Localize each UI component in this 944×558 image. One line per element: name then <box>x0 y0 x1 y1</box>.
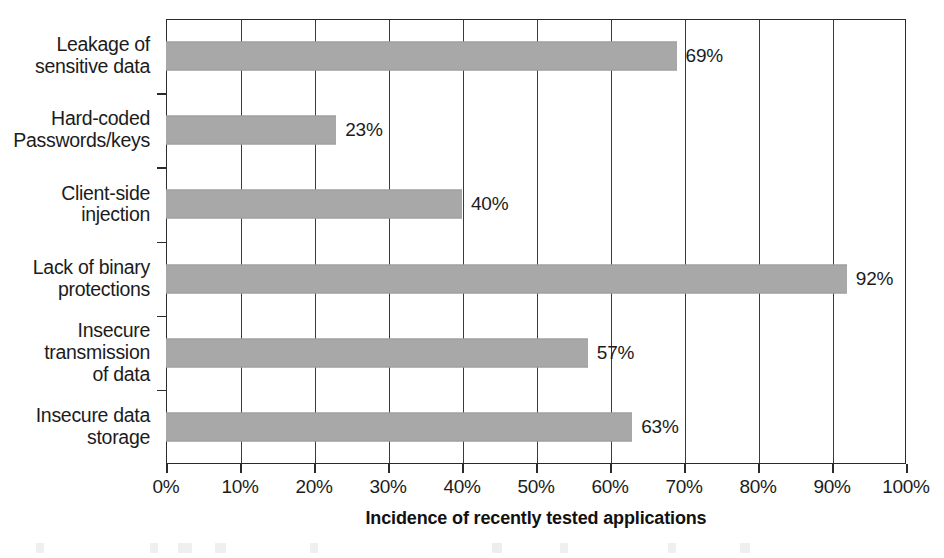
category-label: Hard-coded Passwords/keys <box>0 93 158 167</box>
x-axis-tick <box>462 464 464 473</box>
x-axis-tick-label: 10% <box>221 476 258 498</box>
bar-value-label: 57% <box>597 342 634 364</box>
category-label-text: Lack of binary protections <box>33 257 150 301</box>
x-axis-tick-label: 20% <box>295 476 332 498</box>
x-axis-tick <box>166 464 168 473</box>
y-axis-tick <box>157 93 166 95</box>
scan-artifact <box>0 543 944 553</box>
category-label-text: Client-side injection <box>61 183 150 227</box>
bar <box>166 338 588 367</box>
bar <box>166 264 847 293</box>
category-label-line: Leakage of <box>56 33 150 55</box>
bar-row: 23% <box>166 93 906 167</box>
bar-value-label: 63% <box>641 416 678 438</box>
bar <box>166 116 336 145</box>
category-label-text: Insecure transmission of data <box>44 320 150 385</box>
category-label: Insecure data storage <box>0 390 158 464</box>
category-label-line: transmission <box>44 341 150 363</box>
x-axis-tick <box>684 464 686 473</box>
category-label: Lack of binary protections <box>0 241 158 315</box>
x-axis-tick-label: 100% <box>882 476 929 498</box>
x-axis-tick-label: 0% <box>153 476 180 498</box>
category-label-line: Lack of binary <box>33 256 150 278</box>
x-axis-tick <box>906 464 908 473</box>
category-label-line: sensitive data <box>35 55 150 77</box>
bar-value-label: 69% <box>686 45 723 67</box>
category-label-line: Insecure <box>78 319 150 341</box>
category-label-line: Hard-coded <box>51 107 150 129</box>
bar-value-label: 23% <box>345 119 382 141</box>
horizontal-bar-chart: Leakage of sensitive data Hard-coded Pas… <box>0 0 944 558</box>
x-axis-tick <box>536 464 538 473</box>
category-label-text: Leakage of sensitive data <box>35 34 150 78</box>
category-label-line: protections <box>58 278 150 300</box>
bar-row: 69% <box>166 19 906 93</box>
x-axis-tick-label: 50% <box>517 476 554 498</box>
bar <box>166 412 632 441</box>
category-label-line: Client-side <box>61 182 150 204</box>
bar <box>166 190 462 219</box>
bar-row: 92% <box>166 241 906 315</box>
x-axis-tick-label: 70% <box>665 476 702 498</box>
category-label-text: Hard-coded Passwords/keys <box>13 108 150 152</box>
bar-value-label: 92% <box>856 268 893 290</box>
y-axis-tick <box>157 242 166 244</box>
x-axis-tick-label: 80% <box>739 476 776 498</box>
x-axis-tick <box>832 464 834 473</box>
x-axis-title: Incidence of recently tested application… <box>166 508 906 529</box>
category-axis-labels: Leakage of sensitive data Hard-coded Pas… <box>0 19 158 464</box>
bar-row: 57% <box>166 316 906 390</box>
y-axis-tick <box>157 316 166 318</box>
category-label-line: Passwords/keys <box>13 129 150 151</box>
category-label: Leakage of sensitive data <box>0 19 158 93</box>
category-label: Client-side injection <box>0 167 158 241</box>
x-axis-tick <box>314 464 316 473</box>
bar <box>166 42 677 71</box>
x-axis-tick <box>610 464 612 473</box>
y-axis-tick <box>157 167 166 169</box>
bar-series: 69%23%40%92%57%63% <box>166 19 906 464</box>
x-axis-tick <box>388 464 390 473</box>
x-axis-tick <box>758 464 760 473</box>
category-label-text: Insecure data storage <box>36 405 150 449</box>
bar-row: 63% <box>166 390 906 464</box>
x-axis-tick-label: 40% <box>443 476 480 498</box>
x-axis-tick-label: 60% <box>591 476 628 498</box>
bar-row: 40% <box>166 167 906 241</box>
category-label: Insecure transmission of data <box>0 316 158 390</box>
category-label-line: Insecure data <box>36 404 150 426</box>
y-axis-tick <box>157 390 166 392</box>
category-label-line: storage <box>87 426 150 448</box>
x-axis-tick-label: 30% <box>369 476 406 498</box>
category-label-line: of data <box>92 363 150 385</box>
bar-value-label: 40% <box>471 193 508 215</box>
x-axis-tick-label: 90% <box>813 476 850 498</box>
category-label-line: injection <box>81 203 150 225</box>
x-axis-tick <box>240 464 242 473</box>
